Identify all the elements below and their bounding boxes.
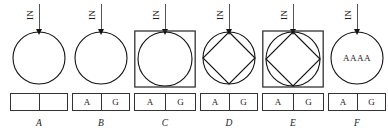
output-cells: AG (134, 93, 196, 111)
panel-d: INAGD (198, 0, 260, 134)
output-cell-1: A (263, 94, 293, 110)
output-cells: AG (200, 93, 258, 111)
output-cell-2: G (101, 94, 129, 110)
shape-group-f: AAAA (329, 30, 385, 92)
shape-zone: AAAA (326, 30, 388, 92)
panel-caption: C (132, 117, 198, 129)
arrow-line (293, 4, 294, 31)
square-outline (135, 31, 195, 87)
in-label: IN (151, 6, 161, 24)
arrow-line (101, 4, 102, 31)
output-cell-1 (11, 94, 39, 110)
panel-caption: F (326, 117, 388, 129)
in-label: IN (343, 6, 353, 24)
panel-caption: D (198, 117, 260, 129)
panel-caption: A (8, 117, 70, 129)
output-cells: AG (72, 93, 130, 111)
output-cell-1: A (329, 94, 357, 110)
output-cell-2: G (165, 94, 195, 110)
panel-caption: B (70, 117, 132, 129)
panel-f: INAAAAAGF (326, 0, 388, 134)
output-cell-2: G (357, 94, 385, 110)
shape-zone (260, 30, 326, 92)
output-cell-2: G (293, 94, 323, 110)
panel-caption: E (260, 117, 326, 129)
output-cell-2 (39, 94, 67, 110)
circle-outline (138, 32, 192, 86)
output-cells: AG (328, 93, 386, 111)
circle-outline (75, 32, 127, 84)
in-label: IN (87, 6, 97, 24)
in-label: IN (215, 6, 225, 24)
output-cell-2: G (229, 94, 257, 110)
shape-zone (198, 30, 260, 92)
output-cells: AG (262, 93, 324, 111)
output-cell-1: A (201, 94, 229, 110)
arrow-line (357, 4, 358, 31)
output-cell-1: A (135, 94, 165, 110)
circle-outline (203, 32, 255, 84)
arrow-line (165, 4, 166, 31)
arrow-line (39, 4, 40, 31)
circle-inner-text: AAAA (343, 53, 371, 63)
circle-outline (266, 32, 320, 86)
panel-c: INAGC (132, 0, 198, 134)
panel-e: INAGE (260, 0, 326, 134)
shape-zone (8, 30, 70, 92)
in-label: IN (25, 6, 35, 24)
shape-group-c (134, 30, 196, 92)
output-cell-1: A (73, 94, 101, 110)
in-label: IN (279, 6, 289, 24)
shape-group-b (73, 30, 129, 92)
shape-group-e (262, 30, 324, 92)
circle-outline (13, 32, 65, 84)
shape-zone (70, 30, 132, 92)
square-outline (263, 31, 323, 87)
shape-group-a (11, 30, 67, 92)
arrow-line (229, 4, 230, 31)
shape-zone (132, 30, 198, 92)
shape-group-d (201, 30, 257, 92)
panel-b: INAGB (70, 0, 132, 134)
panel-a: INA (8, 0, 70, 134)
output-cells (10, 93, 68, 111)
